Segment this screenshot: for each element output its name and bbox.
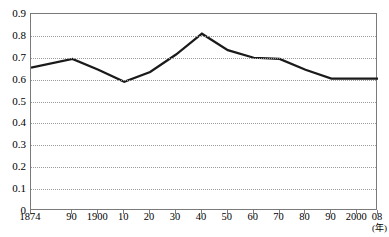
x-tick-label: 2000 <box>346 212 367 223</box>
x-tick-label: 20 <box>144 212 155 223</box>
x-tick-label: 60 <box>247 212 258 223</box>
x-tick-label: 30 <box>170 212 181 223</box>
x-tick-label: 80 <box>299 212 310 223</box>
x-tick-label: 1900 <box>87 212 108 223</box>
line-chart: 00.10.20.30.40.50.60.70.80.9 18749019001… <box>0 0 389 237</box>
x-tick-label: 50 <box>222 212 233 223</box>
x-tick-label: 08 <box>372 212 383 223</box>
x-tick-label: 1874 <box>20 212 41 223</box>
x-tick-label: 70 <box>273 212 284 223</box>
x-tick-label: 90 <box>325 212 336 223</box>
x-tick-label: 10 <box>118 212 129 223</box>
x-axis: 1874901900102030405060708090200008 <box>0 0 389 237</box>
x-axis-unit-label: (年) <box>372 224 387 233</box>
x-tick-label: 90 <box>66 212 77 223</box>
x-tick-label: 40 <box>196 212 207 223</box>
